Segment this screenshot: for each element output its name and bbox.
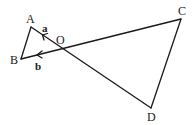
segment-ad-through-o — [31, 27, 151, 108]
point-label-a: A — [26, 12, 35, 26]
point-label-d: D — [147, 110, 156, 124]
point-label-o: O — [56, 33, 65, 47]
point-label-b: B — [10, 53, 18, 67]
vector-label-b: b — [35, 60, 41, 72]
segment-cd — [151, 19, 181, 108]
vector-label-a: a — [42, 22, 48, 34]
point-label-c: C — [178, 4, 186, 18]
geometry-diagram: A B O C D a b — [0, 0, 194, 125]
segment-ab — [21, 27, 31, 59]
